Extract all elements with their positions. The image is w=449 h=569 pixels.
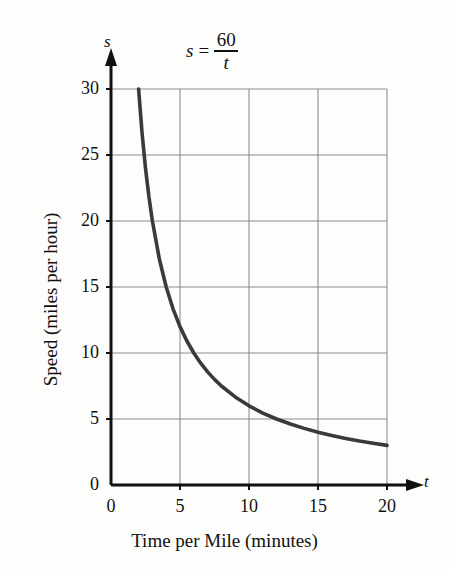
- y-axis-tick-label: 15: [59, 277, 99, 295]
- y-axis-tick-label: 20: [59, 211, 99, 229]
- x-axis-tick-label: 10: [229, 497, 269, 515]
- chart-figure: s = 60 t s t Time per Mile (minutes) Spe…: [0, 0, 449, 569]
- y-axis-arrowhead: [105, 48, 117, 66]
- data-curve: [139, 89, 387, 445]
- x-axis-tick-label: 0: [91, 497, 131, 515]
- x-axis-tick-label: 15: [298, 497, 338, 515]
- y-axis-tick-label: 0: [59, 475, 99, 493]
- y-axis-tick-label: 25: [59, 145, 99, 163]
- y-axis-tick-label: 30: [59, 79, 99, 97]
- x-axis-arrowhead: [406, 479, 424, 491]
- y-axis-tick-label: 10: [59, 343, 99, 361]
- axis-lines: [105, 48, 424, 491]
- gridlines: [111, 89, 387, 485]
- x-axis-tick-label: 5: [160, 497, 200, 515]
- y-axis-tick-label: 5: [59, 409, 99, 427]
- x-axis-tick-label: 20: [367, 497, 407, 515]
